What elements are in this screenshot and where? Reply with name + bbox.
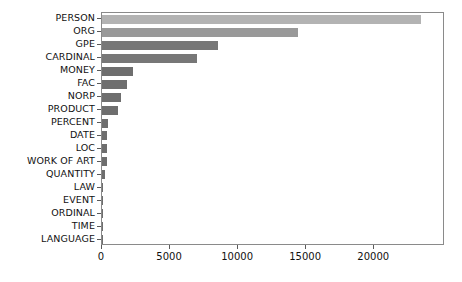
bar-event — [102, 196, 103, 205]
y-tick-label-language: LANGUAGE — [0, 234, 95, 244]
y-tick-label-money: MONEY — [0, 65, 95, 75]
bar-row — [102, 91, 445, 104]
y-tick-label-time: TIME — [0, 221, 95, 231]
x-tick-label-15000: 15000 — [289, 251, 321, 262]
bar-row — [102, 65, 445, 78]
bar-ordinal — [102, 209, 103, 218]
bar-gpe — [102, 41, 218, 50]
x-tick-mark — [169, 245, 170, 249]
x-tick-label-20000: 20000 — [357, 251, 389, 262]
bar-fac — [102, 80, 127, 89]
y-tick-label-cardinal: CARDINAL — [0, 52, 95, 62]
bar-row — [102, 207, 445, 220]
x-tick-mark — [237, 245, 238, 249]
bar-law — [102, 183, 103, 192]
y-tick-label-date: DATE — [0, 130, 95, 140]
y-tick-label-quantity: QUANTITY — [0, 169, 95, 179]
bar-percent — [102, 119, 108, 128]
bar-row — [102, 104, 445, 117]
x-tick-label-10000: 10000 — [221, 251, 253, 262]
y-tick-label-event: EVENT — [0, 195, 95, 205]
bar-work-of-art — [102, 157, 107, 166]
bar-money — [102, 67, 133, 76]
bar-chart-figure: PERSONORGGPECARDINALMONEYFACNORPPRODUCTP… — [0, 0, 462, 282]
bar-row — [102, 130, 445, 143]
bar-language — [102, 235, 103, 244]
bar-cardinal — [102, 54, 197, 63]
bar-row — [102, 194, 445, 207]
bar-row — [102, 220, 445, 233]
y-tick-label-percent: PERCENT — [0, 117, 95, 127]
y-tick-label-norp: NORP — [0, 91, 95, 101]
x-tick-mark — [305, 245, 306, 249]
y-tick-label-person: PERSON — [0, 13, 95, 23]
y-tick-label-work-of-art: WORK OF ART — [0, 156, 95, 166]
bar-org — [102, 28, 298, 37]
bar-row — [102, 52, 445, 65]
bar-row — [102, 155, 445, 168]
x-axis-ticks: 05000100001500020000 — [101, 245, 444, 275]
bar-norp — [102, 93, 121, 102]
bar-row — [102, 13, 445, 26]
x-tick-label-5000: 5000 — [156, 251, 181, 262]
y-axis-tick-labels: PERSONORGGPECARDINALMONEYFACNORPPRODUCTP… — [0, 12, 95, 245]
bar-product — [102, 106, 118, 115]
bar-row — [102, 142, 445, 155]
x-tick-label-0: 0 — [98, 251, 104, 262]
bar-row — [102, 39, 445, 52]
bar-time — [102, 222, 103, 231]
y-tick-label-org: ORG — [0, 26, 95, 36]
y-tick-label-loc: LOC — [0, 143, 95, 153]
y-tick-label-law: LAW — [0, 182, 95, 192]
x-tick-mark — [101, 245, 102, 249]
bar-person — [102, 15, 421, 24]
bar-quantity — [102, 170, 105, 179]
y-tick-label-fac: FAC — [0, 78, 95, 88]
bar-date — [102, 131, 107, 140]
bars-layer — [102, 13, 443, 244]
bar-row — [102, 181, 445, 194]
y-tick-label-ordinal: ORDINAL — [0, 208, 95, 218]
x-tick-mark — [373, 245, 374, 249]
bar-row — [102, 26, 445, 39]
plot-area — [101, 12, 444, 245]
y-tick-label-gpe: GPE — [0, 39, 95, 49]
bar-row — [102, 117, 445, 130]
y-tick-label-product: PRODUCT — [0, 104, 95, 114]
bar-loc — [102, 144, 107, 153]
bar-row — [102, 78, 445, 91]
bar-row — [102, 168, 445, 181]
